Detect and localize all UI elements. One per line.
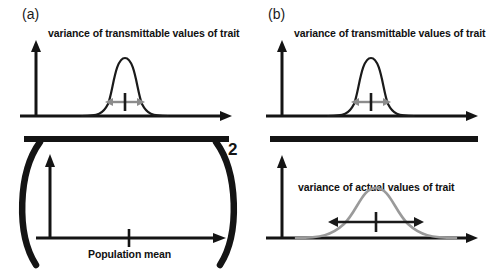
panel-b: (b) variance of transmittable values of … <box>246 0 491 271</box>
panel-b-numerator-plot <box>266 40 481 125</box>
y-axis <box>277 40 287 116</box>
panel-b-fraction-bar <box>270 136 478 142</box>
panel-b-numerator-caption: variance of transmittable values of trai… <box>294 27 485 39</box>
y-axis <box>277 155 287 238</box>
x-axis <box>20 111 232 121</box>
panel-b-denominator-plot <box>266 150 481 250</box>
panel-b-label: (b) <box>268 6 285 22</box>
variance-spread-arrow <box>328 212 424 232</box>
panel-a-label: (a) <box>22 6 39 22</box>
y-axis <box>31 40 41 116</box>
population-mean-label: Population mean <box>88 248 171 260</box>
y-axis <box>45 154 55 238</box>
panel-a-numerator-plot <box>20 40 235 125</box>
panel-a-denominator-plot <box>36 150 231 250</box>
panel-a-numerator-caption: variance of transmittable values of trai… <box>48 27 239 39</box>
x-axis <box>36 233 226 243</box>
panel-a: (a) variance of transmittable values of … <box>0 0 245 271</box>
heritability-figure: (a) variance of transmittable values of … <box>0 0 491 271</box>
x-axis <box>266 111 478 121</box>
